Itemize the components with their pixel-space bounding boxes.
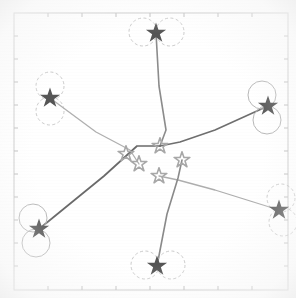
node-star-marker xyxy=(29,218,49,237)
axis-ticks-left xyxy=(14,36,18,266)
center-star-marker xyxy=(151,168,167,183)
network-edge xyxy=(156,33,166,146)
scatter-plot-canvas xyxy=(0,0,296,298)
center-star-marker xyxy=(118,146,134,161)
plot-frame xyxy=(14,13,288,290)
node-star-marker xyxy=(258,95,278,114)
node-star-marker xyxy=(269,199,289,218)
figure-root xyxy=(0,0,296,298)
axis-ticks-top xyxy=(48,13,252,17)
network-edge xyxy=(39,146,160,229)
network-edge xyxy=(160,106,268,146)
axis-ticks-right xyxy=(284,36,288,266)
axis-ticks-bottom xyxy=(48,286,252,290)
outer-node-layer xyxy=(29,22,289,274)
